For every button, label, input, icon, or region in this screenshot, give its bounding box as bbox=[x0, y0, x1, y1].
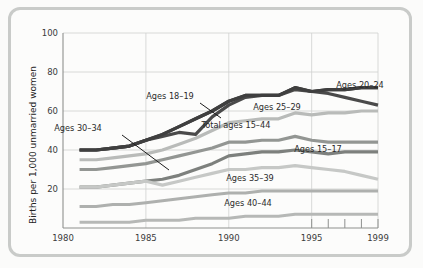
y-axis-title: Births per 1,000 unmarried women bbox=[28, 66, 38, 224]
x-tick-label-1999: 1999 bbox=[367, 233, 389, 243]
series-label-ages-25-29: Ages 25–29 bbox=[253, 102, 301, 112]
line-chart: 20406080100 19801985199019951999 Ages 20… bbox=[0, 0, 423, 268]
gridlines bbox=[63, 33, 378, 228]
series-label-ages-30-34: Ages 30–34 bbox=[54, 123, 102, 133]
y-tick-label-40: 40 bbox=[47, 145, 58, 155]
series-label-ages-20-24: Ages 20–24 bbox=[336, 80, 384, 90]
series-label-total-ages-15-44: Total ages 15–44 bbox=[201, 120, 271, 130]
series-label-ages-15-17: Ages 15–17 bbox=[294, 144, 342, 154]
chart-figure: 20406080100 19801985199019951999 Ages 20… bbox=[0, 0, 423, 268]
axis-ticks bbox=[63, 33, 378, 228]
x-tick-label-1980: 1980 bbox=[52, 233, 74, 243]
series-label-ages-35-39: Ages 35–39 bbox=[226, 173, 274, 183]
y-tick-label-80: 80 bbox=[47, 67, 58, 77]
x-axis-tick-labels: 19801985199019951999 bbox=[52, 233, 389, 243]
y-tick-label-60: 60 bbox=[47, 106, 58, 116]
y-tick-label-20: 20 bbox=[47, 184, 58, 194]
x-tick-label-1990: 1990 bbox=[218, 233, 240, 243]
x-tick-label-1985: 1985 bbox=[135, 233, 157, 243]
y-axis-tick-labels: 20406080100 bbox=[42, 28, 58, 194]
series-label-ages-18-19: Ages 18–19 bbox=[146, 91, 194, 101]
y-tick-label-100: 100 bbox=[42, 28, 58, 38]
series-label-ages-40-44: Ages 40–44 bbox=[224, 198, 272, 208]
x-tick-label-1995: 1995 bbox=[301, 233, 323, 243]
